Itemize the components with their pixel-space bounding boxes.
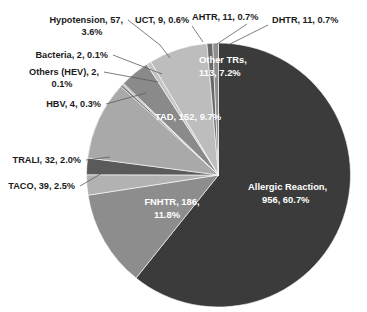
leader-line-hypotension — [128, 20, 170, 58]
pie-slices-group — [86, 43, 350, 307]
label-other-trs-line2: 113, 7.2% — [199, 67, 241, 78]
leader-line-dhtr — [228, 25, 268, 45]
label-dhtr: DHTR, 11, 0.7% — [272, 15, 338, 25]
label-hbv: HBV, 4, 0.3% — [46, 99, 101, 109]
label-fnhtr-line1: FNHTR, 186, — [144, 196, 199, 207]
label-hypotension-line2: 3.6% — [82, 27, 103, 37]
label-allergic-reaction-line2: 956, 60.7% — [262, 194, 310, 205]
label-hypotension-line1: Hypotension, 57, — [49, 15, 123, 25]
label-trali: TRALI, 32, 2.0% — [13, 155, 81, 165]
leader-line-uct — [192, 26, 203, 42]
label-bacteria: Bacteria, 2, 0.1% — [35, 50, 108, 60]
label-allergic-reaction-line1: Allergic Reaction, — [248, 181, 327, 192]
pie-chart-svg: Hypotension, 57, 3.6% UCT, 9, 0.6% AHTR,… — [0, 0, 367, 312]
label-tad: TAD, 152, 9.7% — [155, 111, 222, 122]
label-uct: UCT, 9, 0.6% — [135, 15, 189, 25]
pie-chart-container: Hypotension, 57, 3.6% UCT, 9, 0.6% AHTR,… — [0, 0, 367, 312]
label-others-hev-line2: 0.1% — [52, 79, 73, 89]
label-taco: TACO, 39, 2.5% — [8, 181, 75, 191]
label-others-hev-line1: Others (HEV), 2, — [29, 67, 99, 77]
label-fnhtr-line2: 11.8% — [154, 209, 181, 220]
label-ahtr: AHTR, 11, 0.7% — [192, 12, 258, 22]
leader-line-ahtr — [217, 24, 247, 44]
label-other-trs-line1: Other TRs, — [199, 54, 247, 65]
